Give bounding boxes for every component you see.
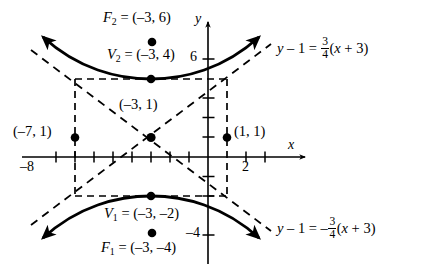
focus-f1-label: F1 = (–3, –4) (101, 240, 176, 257)
point-right-label: (1, 1) (234, 124, 265, 139)
hyperbola-figure: F2 = (–3, 6) V2 = (–3, 4) (–3, 1) (–7, 1… (0, 0, 426, 273)
center-dot (146, 133, 155, 142)
point-right-dot (223, 133, 232, 142)
vertex-v2-dot (147, 75, 156, 84)
asymptote-positive-equation: y – 1 = 34(x + 3) (277, 36, 368, 61)
asymptote-negative-equation: y – 1 = –34(x + 3) (277, 216, 375, 241)
focus-f1-dot (148, 229, 157, 238)
vertex-v1-label: V1 = (–3, –2) (104, 206, 179, 223)
x-tick-label-neg8: –8 (20, 160, 34, 174)
vertex-v1-dot (147, 192, 156, 201)
y-tick-label-neg4: –4 (186, 226, 200, 240)
x-tick-label-2: 2 (242, 160, 249, 174)
vertex-v2-label: V2 = (–3, 4) (107, 47, 175, 64)
point-left-dot (71, 133, 80, 142)
y-axis-label: y (195, 12, 201, 26)
focus-f2-label: F2 = (–3, 6) (103, 10, 171, 27)
center-label: (–3, 1) (119, 97, 158, 112)
point-left-label: (–7, 1) (13, 124, 52, 139)
y-tick-label-6: 6 (190, 50, 197, 64)
focus-f2-dot (148, 38, 157, 47)
x-axis-label: x (288, 138, 294, 152)
